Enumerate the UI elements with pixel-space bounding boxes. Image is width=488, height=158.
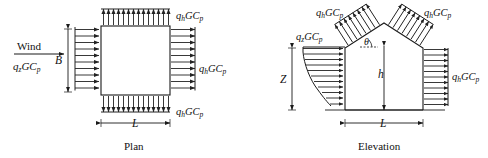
elevation-dimension-h-label: h	[378, 68, 384, 80]
elevation-caption: Elevation	[358, 140, 401, 152]
elevation-dimension-z-label: Z	[280, 73, 287, 85]
diagram-canvas: Wind qzGCp B L qhGCp qhGCp qhGCp Plan	[0, 0, 488, 158]
plan-dimension-b-label: B	[55, 54, 62, 66]
plan-caption: Plan	[124, 140, 144, 152]
plan-windward-pressure-label: qzGCp	[13, 60, 41, 74]
elevation-dimension-l-label: L	[379, 117, 386, 129]
plan-dimension-l-label: L	[131, 117, 138, 129]
wind-load-diagram: Wind qzGCp B L qhGCp qhGCp qhGCp Plan	[0, 0, 488, 158]
elevation-angle-label: θ	[364, 36, 369, 47]
plan-wind-label: Wind	[17, 40, 41, 52]
